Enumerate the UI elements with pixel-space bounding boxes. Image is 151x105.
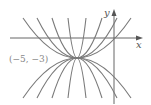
y-axis-arrow-icon — [112, 9, 117, 16]
downward-parabolas — [23, 58, 131, 98]
parabola-family-diagram: x y (−5, −3) — [0, 0, 151, 105]
y-axis-label: y — [103, 7, 110, 18]
vertex-label: (−5, −3) — [9, 54, 48, 64]
x-axis-label: x — [136, 39, 142, 50]
